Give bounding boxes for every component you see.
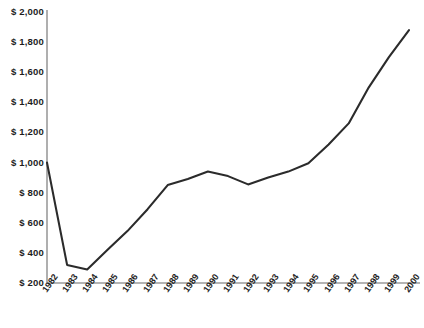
x-axis-tick-label: 2000 bbox=[403, 273, 422, 295]
x-axis-tick-label: 1985 bbox=[101, 273, 120, 295]
x-axis-tick-label: 1992 bbox=[242, 273, 261, 295]
line-chart: $ 2,000$ 1,800$ 1,600$ 1,400$ 1,200$ 1,0… bbox=[0, 0, 424, 328]
x-axis-tick-label: 1999 bbox=[383, 273, 402, 295]
x-axis-tick-label: 1998 bbox=[363, 273, 382, 295]
x-axis-tick-label: 1987 bbox=[142, 273, 161, 295]
x-axis-tick-label: 1993 bbox=[262, 273, 281, 295]
x-axis-tick-label: 1982 bbox=[41, 273, 60, 295]
x-axis-tick-label: 1995 bbox=[302, 273, 321, 295]
x-axis-tick-label: 1986 bbox=[121, 273, 140, 295]
x-axis-tick-label: 1990 bbox=[202, 273, 221, 295]
x-axis-tick-label: 1983 bbox=[61, 273, 80, 295]
x-axis-tick-label: 1994 bbox=[282, 273, 301, 295]
x-axis-tick-label: 1997 bbox=[343, 273, 362, 295]
x-axis-tick-label: 1991 bbox=[222, 273, 241, 295]
x-axis-tick-label: 1984 bbox=[81, 273, 100, 295]
x-axis-tick-labels: 1982198319841985198619871988198919901991… bbox=[0, 0, 424, 328]
x-axis-tick-label: 1989 bbox=[182, 273, 201, 295]
x-axis-tick-label: 1988 bbox=[162, 273, 181, 295]
x-axis-tick-label: 1996 bbox=[323, 273, 342, 295]
